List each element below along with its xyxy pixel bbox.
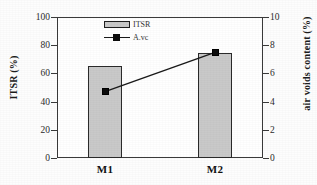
legend-label-itsr: ITSR (133, 19, 150, 30)
y-right-tick-0: 0 (270, 153, 296, 163)
y-left-tick-60: 60 (24, 68, 50, 78)
y-right-tickmark-10 (263, 17, 269, 18)
y-right-tick-10: 10 (270, 12, 296, 22)
y-axis-right-title: air voids content (%) (301, 4, 312, 124)
y-left-tick-80: 80 (24, 40, 50, 50)
y-right-tick-8: 8 (270, 40, 296, 50)
legend-bar-swatch-icon (104, 21, 130, 28)
y-left-tick-40: 40 (24, 97, 50, 107)
y-right-tickmark-4 (263, 102, 269, 103)
y-right-tickmark-6 (263, 73, 269, 74)
y-left-tick-20: 20 (24, 125, 50, 135)
legend-label-avc: A.vc (133, 32, 148, 43)
chart-legend: ITSR A.vc (101, 19, 177, 45)
y-left-tickmark-0 (51, 158, 57, 159)
line-segment-m1-m2 (105, 52, 215, 91)
legend-entry-itsr: ITSR (101, 19, 177, 31)
marker-avc-m1 (102, 88, 109, 95)
legend-entry-avc: A.vc (101, 32, 177, 44)
marker-avc-m2 (212, 49, 219, 56)
chart-figure: 100 80 60 40 20 0 10 8 6 4 2 0 ITSR (%) … (0, 0, 317, 185)
y-right-tickmark-8 (263, 45, 269, 46)
x-axis-label-m1: M1 (82, 163, 128, 175)
y-right-tick-2: 2 (270, 125, 296, 135)
y-left-tick-100: 100 (24, 12, 50, 22)
y-right-tick-4: 4 (270, 97, 296, 107)
x-axis-label-m2: M2 (192, 163, 238, 175)
y-right-tick-6: 6 (270, 68, 296, 78)
y-left-tick-0: 0 (24, 153, 50, 163)
y-right-tickmark-0 (263, 158, 269, 159)
y-axis-left-title: ITSR (%) (8, 33, 19, 123)
legend-square-marker-icon (113, 34, 120, 41)
y-right-tickmark-2 (263, 130, 269, 131)
